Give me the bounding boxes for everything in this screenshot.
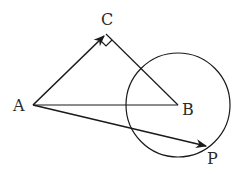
label-c: C: [101, 10, 113, 29]
geometry-diagram: C A B P: [0, 0, 241, 174]
right-angle-marker: [100, 40, 112, 46]
vector-ap: [33, 105, 206, 146]
label-a: A: [12, 96, 25, 115]
label-b: B: [182, 100, 194, 119]
label-p: P: [207, 149, 218, 168]
vector-ac: [33, 36, 104, 105]
segment-cb: [106, 34, 178, 105]
